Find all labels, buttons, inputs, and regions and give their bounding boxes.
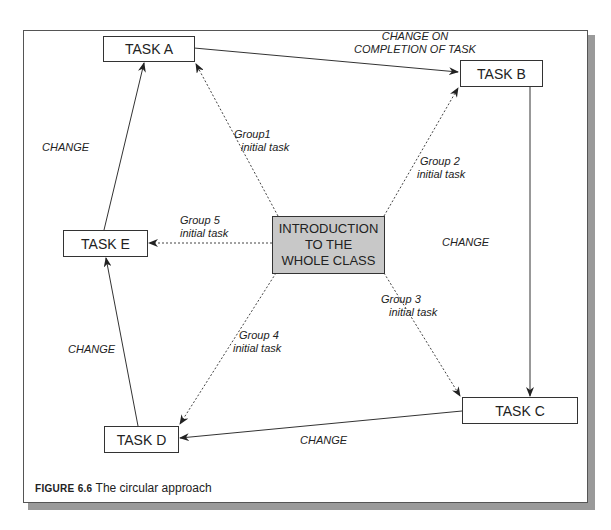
arrow-e-to-a <box>104 63 144 230</box>
figure-title: The circular approach <box>92 481 211 495</box>
group2-label: Group 2 initial task <box>417 155 465 181</box>
task-b-box: TASK B <box>460 60 543 87</box>
group3-label: Group 3 initial task <box>381 293 437 319</box>
task-a-box: TASK A <box>103 36 195 62</box>
task-c-label: TASK C <box>495 403 545 419</box>
group1-label: Group1 initial task <box>234 128 289 154</box>
arrow-d-to-e <box>106 258 138 426</box>
figure-caption: FIGURE 6.6 The circular approach <box>35 481 212 495</box>
change-label-d-e: CHANGE <box>68 343 115 356</box>
change-on-completion-label: CHANGE ON COMPLETION OF TASK <box>345 30 485 56</box>
introduction-box: INTRODUCTION TO THE WHOLE CLASS <box>272 216 385 274</box>
change-label-c-d: CHANGE <box>300 434 347 447</box>
task-c-box: TASK C <box>462 397 578 424</box>
task-d-box: TASK D <box>104 426 179 453</box>
center-line-1: INTRODUCTION <box>279 221 379 237</box>
task-d-label: TASK D <box>117 432 167 448</box>
group5-label: Group 5 initial task <box>180 214 228 240</box>
change-label-e-a: CHANGE <box>42 141 89 154</box>
change-label-b-c: CHANGE <box>442 236 489 249</box>
center-line-3: WHOLE CLASS <box>282 253 376 269</box>
task-b-label: TASK B <box>477 66 526 82</box>
task-e-box: TASK E <box>63 230 148 257</box>
arrow-center-to-c <box>384 273 460 396</box>
task-a-label: TASK A <box>125 41 173 57</box>
group4-label: Group 4 initial task <box>233 329 281 355</box>
figure-number: FIGURE 6.6 <box>35 483 92 494</box>
center-line-2: TO THE <box>305 237 352 253</box>
task-e-label: TASK E <box>81 236 130 252</box>
arrow-center-to-b <box>384 88 458 216</box>
